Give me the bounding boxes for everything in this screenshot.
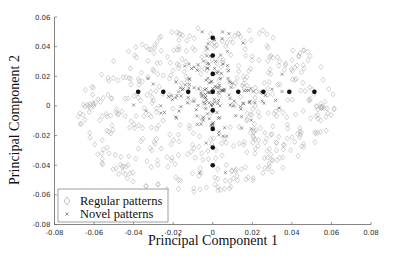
y-tick-label: -0.06 — [32, 191, 51, 199]
y-tick-label: 0.02 — [35, 73, 51, 81]
x-tick-label: 0.04 — [284, 229, 300, 237]
x-axis-label: Principal Component 1 — [148, 233, 278, 248]
legend-label-novel: Novel patterns — [80, 207, 153, 221]
x-tick-label: -0.06 — [85, 229, 104, 237]
x-tick-label: 0.06 — [324, 229, 340, 237]
x-tick-label: -0.04 — [125, 229, 144, 237]
regular-pattern-points — [76, 26, 336, 195]
y-axis-ticks: -0.08-0.06-0.04-0.0200.020.040.06 — [32, 14, 57, 230]
y-tick-label: 0 — [46, 102, 50, 110]
y-axis-label: Principal Component 2 — [7, 55, 22, 185]
y-tick-label: -0.04 — [32, 162, 51, 170]
y-tick-label: -0.08 — [32, 221, 50, 229]
center-points — [136, 35, 317, 167]
scatter-chart: -0.08-0.06-0.04-0.0200.020.040.060.08 -0… — [0, 0, 395, 264]
y-tick-label: -0.02 — [32, 132, 50, 140]
x-tick-label: 0.08 — [363, 229, 379, 237]
y-tick-label: 0.04 — [35, 43, 51, 51]
legend: Regular patterns Novel patterns — [58, 189, 168, 222]
y-tick-label: 0.06 — [35, 14, 51, 22]
x-tick-label: -0.08 — [45, 229, 63, 237]
legend-label-regular: Regular patterns — [80, 194, 162, 208]
